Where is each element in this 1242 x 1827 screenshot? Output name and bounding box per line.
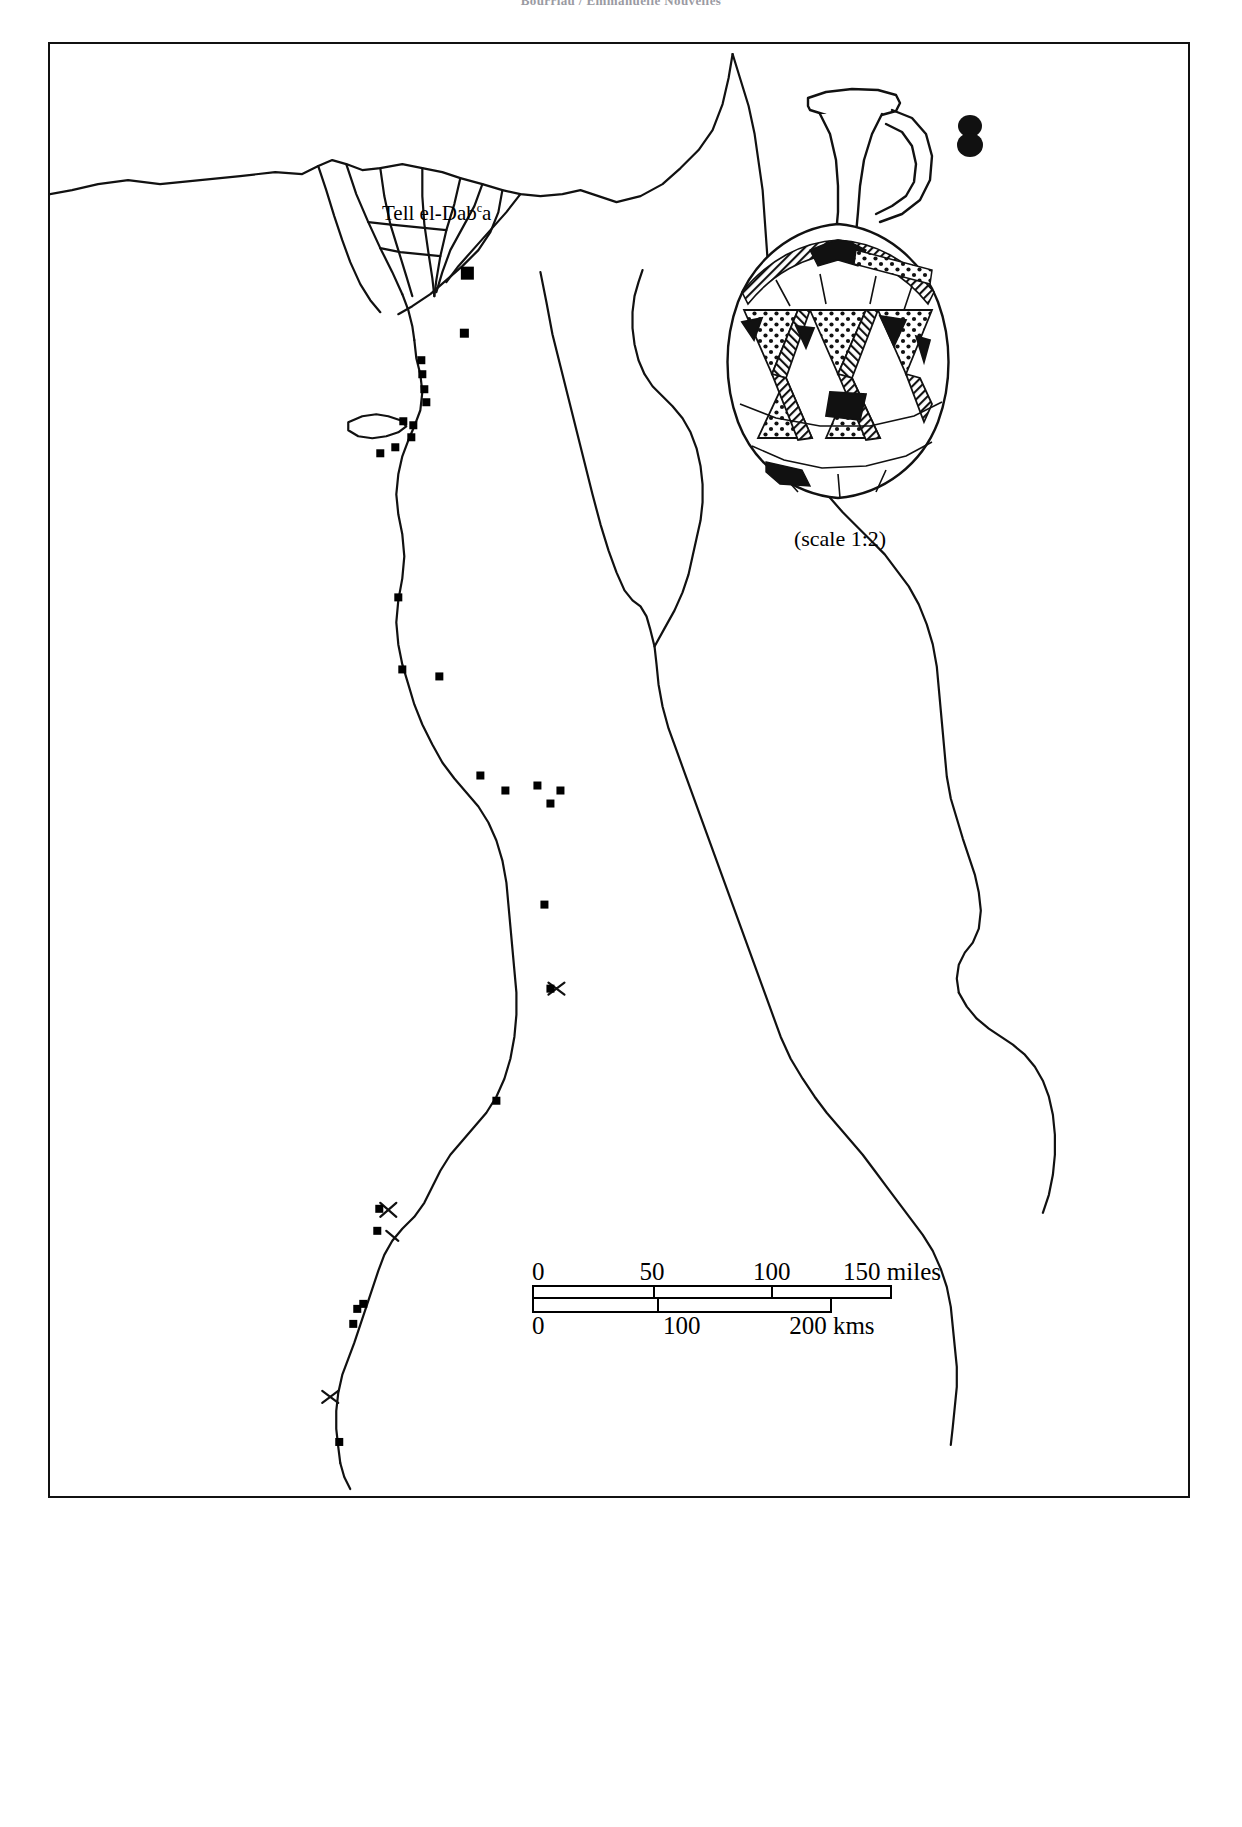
scale-tick-label: 50 (639, 1259, 664, 1284)
site-marker (435, 672, 443, 680)
scale-tick-label: 150 miles (843, 1259, 941, 1284)
scale-tick-label: 0 (532, 1313, 545, 1338)
delta-branch-2 (380, 168, 412, 296)
site-marker (407, 433, 415, 441)
scale-tick (657, 1299, 659, 1311)
site-label-name: Tell el-Dab (382, 201, 477, 225)
site-marker (546, 800, 554, 808)
site-marker (376, 449, 384, 457)
site-marker (492, 1097, 500, 1105)
scale-bar: 050100150 miles 0100200 kms (532, 1259, 892, 1339)
delta-outline-west (318, 166, 380, 312)
site-marker (501, 787, 509, 795)
site-marker (391, 443, 399, 451)
cataract-mark-4 (322, 1391, 338, 1403)
vessel-rim (808, 89, 900, 118)
site-marker (422, 398, 430, 406)
scale-tick-label: 200 kms (789, 1313, 874, 1338)
scale-bar-miles (532, 1285, 892, 1299)
site-marker (409, 421, 417, 429)
site-label-suffix: a (482, 201, 491, 225)
site-marker (417, 356, 425, 364)
site-marker (398, 665, 406, 673)
site-marker (420, 385, 428, 393)
running-head-text: Bourriau / Emmanuelle Nouvelles (0, 0, 1242, 7)
site-label-tell-el-daba: Tell el-Dabca (382, 202, 491, 224)
site-marker (476, 772, 484, 780)
vessel-illustration (680, 74, 970, 554)
site-marker (373, 1227, 381, 1235)
scale-tick (653, 1287, 655, 1297)
delta-apex (402, 294, 414, 340)
vessel-neck (820, 114, 882, 234)
scale-tick (771, 1287, 773, 1297)
vessel-handle (880, 110, 932, 222)
faiyum-lake (348, 414, 406, 438)
scale-bar-kms (532, 1299, 832, 1313)
scale-tick-label: 100 (753, 1259, 791, 1284)
site-marker (394, 593, 402, 601)
scale-tick-label: 100 (663, 1313, 701, 1338)
reference-mark-icon (950, 112, 990, 162)
site-marker (533, 782, 541, 790)
vessel-svg (680, 74, 970, 554)
vessel-scale-caption: (scale 1:2) (730, 526, 950, 552)
mediterranean-coastline (50, 54, 733, 202)
site-markers (335, 267, 564, 1446)
running-head: Bourriau / Emmanuelle Nouvelles (0, 0, 1242, 12)
site-marker (418, 370, 426, 378)
site-marker (461, 267, 474, 280)
site-marker (546, 985, 554, 993)
southern-edge (340, 1463, 350, 1489)
delta-branch-cross-2 (380, 248, 440, 256)
site-marker (335, 1438, 343, 1446)
scale-bar-kms-labels: 0100200 kms (532, 1313, 892, 1339)
delta-branch-3 (422, 168, 434, 296)
scale-bar-miles-labels: 050100150 miles (532, 1259, 892, 1285)
red-sea-east-coast (959, 993, 1055, 1213)
site-marker (375, 1205, 383, 1213)
delta-branch-1 (346, 164, 402, 294)
site-marker (399, 417, 407, 425)
site-marker (460, 329, 469, 338)
site-marker (359, 1300, 367, 1308)
site-marker (349, 1320, 357, 1328)
site-marker (556, 787, 564, 795)
nile-river (336, 340, 516, 1463)
scale-tick-label: 0 (532, 1259, 545, 1284)
site-marker (540, 901, 548, 909)
figure-frame: Tell el-Dabca (48, 42, 1190, 1498)
vessel-handle-inner (876, 124, 916, 214)
